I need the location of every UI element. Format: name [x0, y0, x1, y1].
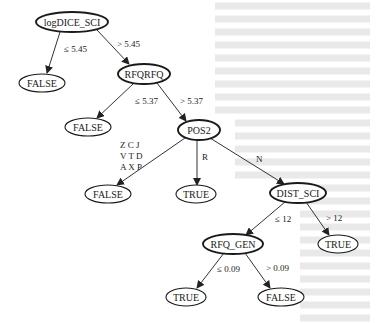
edge-pos2-to-false3: Z C JV T DA X P: [117, 138, 185, 185]
decision-node-pos2: POS2: [178, 120, 220, 140]
node-label: TRUE: [173, 292, 199, 303]
edge-label: R: [202, 152, 208, 162]
node-label: POS2: [187, 125, 210, 136]
node-label: TRUE: [183, 189, 209, 200]
leaf-node-false: FALSE: [85, 185, 131, 203]
edge-label: > 5.37: [180, 96, 204, 106]
decision-node-logdice-sci: logDICE_SCI: [36, 12, 108, 32]
leaf-node-true: TRUE: [318, 235, 358, 253]
edge-label: > 12: [326, 213, 342, 223]
edges-layer: ≤ 5.45> 5.45≤ 5.37> 5.37Z C JV T DA X PR…: [47, 30, 342, 288]
decision-node-rfq-gen: RFQ_GEN: [203, 234, 263, 254]
edge-rfqrfq-to-false2: ≤ 5.37: [97, 84, 158, 118]
decision-tree-diagram: ≤ 5.45> 5.45≤ 5.37> 5.37Z C JV T DA X PR…: [0, 0, 376, 323]
edge-arrow: [47, 32, 60, 73]
node-label: RFQ_GEN: [210, 239, 255, 250]
edge-root-to-false1: ≤ 5.45: [47, 32, 87, 73]
edge-arrow: [97, 84, 133, 118]
leaf-node-true: TRUE: [176, 185, 216, 203]
node-label: FALSE: [27, 78, 57, 89]
node-label: logDICE_SCI: [44, 17, 101, 28]
node-label: DIST_SCI: [277, 188, 320, 199]
edge-pos2-to-true1: R: [197, 140, 208, 185]
edge-pos2-to-dist: N: [210, 138, 284, 184]
edge-label: > 5.45: [117, 39, 141, 49]
edge-label: ≤ 5.37: [135, 96, 158, 106]
leaf-node-true: TRUE: [166, 288, 206, 306]
node-label: FALSE: [73, 122, 103, 133]
edge-rfqrfq-to-pos2: > 5.37: [157, 83, 204, 121]
edge-label: Z C J: [120, 140, 140, 150]
edge-label: > 0.09: [266, 263, 290, 273]
edge-dist-to-true2: > 12: [306, 202, 342, 235]
leaf-node-false: FALSE: [65, 118, 111, 136]
edge-label: N: [256, 154, 263, 164]
edge-root-to-rfqrfq: > 5.45: [97, 30, 141, 64]
decision-tree-figure: ≤ 5.45> 5.45≤ 5.37> 5.37Z C JV T DA X PR…: [0, 0, 376, 323]
node-label: FALSE: [266, 292, 296, 303]
leaf-node-false: FALSE: [19, 74, 65, 92]
edge-rfqgen-to-false4: > 0.09: [245, 253, 290, 288]
decision-node-dist-sci: DIST_SCI: [270, 183, 326, 203]
edge-label: ≤ 0.09: [217, 264, 240, 274]
leaf-node-false: FALSE: [258, 288, 304, 306]
edge-arrow: [210, 138, 284, 184]
edge-label: ≤ 12: [275, 214, 291, 224]
nodes-layer: logDICE_SCIFALSERFQRFQFALSEPOS2FALSETRUE…: [19, 12, 358, 306]
edge-rfqgen-to-true3: ≤ 0.09: [197, 253, 240, 288]
edge-label: ≤ 5.45: [64, 44, 87, 54]
node-label: RFQRFQ: [125, 69, 165, 80]
decision-node-rfqrfq: RFQRFQ: [118, 64, 170, 84]
edge-label: V T D: [120, 151, 143, 161]
node-label: FALSE: [93, 189, 123, 200]
edge-dist-to-rfqgen: ≤ 12: [246, 202, 291, 235]
node-label: TRUE: [325, 239, 351, 250]
edge-label: A X P: [120, 162, 142, 172]
